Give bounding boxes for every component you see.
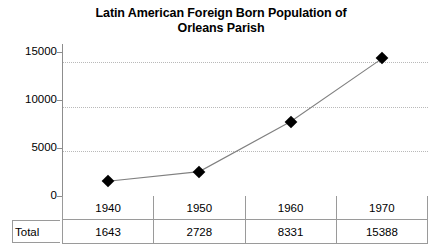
- chart-container: Latin American Foreign Born Population o…: [0, 0, 442, 252]
- table-cell-1960: 8331: [245, 220, 336, 244]
- table-cell-1950: 2728: [154, 220, 245, 244]
- table-cell-1970: 15388: [336, 220, 427, 244]
- table-row-label: Total: [12, 220, 60, 243]
- data-table: 1940 1950 1960 1970 1643 2728 8331 15388: [62, 196, 428, 244]
- table-header-1970: 1970: [336, 196, 427, 220]
- table-header-row: 1940 1950 1960 1970: [63, 196, 428, 220]
- table-header-1950: 1950: [154, 196, 245, 220]
- table-header-1940: 1940: [63, 196, 154, 220]
- table-row: 1643 2728 8331 15388: [63, 220, 428, 244]
- table-header-1960: 1960: [245, 196, 336, 220]
- table-cell-1940: 1643: [63, 220, 154, 244]
